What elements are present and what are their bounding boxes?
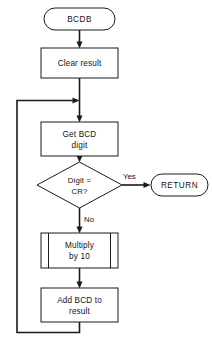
multiply-label-line2: by 10 <box>69 252 90 261</box>
return-terminal-label: RETURN <box>161 181 198 190</box>
get-bcd-digit-label-line2: digit <box>72 141 88 150</box>
flowchart-canvas: BCDB Clear result Get BCD digit Digit = … <box>0 0 213 346</box>
decision-label-line1: Digit = <box>68 176 92 185</box>
connector-decision-no-to-multiply <box>77 208 83 234</box>
add-bcd-shape <box>41 288 118 322</box>
add-bcd-label-line2: result <box>69 307 90 316</box>
node-decision-digit-cr: Digit = CR? <box>37 162 122 208</box>
node-clear-result: Clear result <box>41 48 118 78</box>
start-terminal-label: BCDB <box>67 15 92 24</box>
decision-label-line2: CR? <box>71 187 88 196</box>
node-return-terminal: RETURN <box>151 174 208 196</box>
node-add-bcd-to-result: Add BCD to result <box>41 288 118 322</box>
decision-diamond-shape <box>37 162 122 208</box>
get-bcd-digit-label-line1: Get BCD <box>63 130 97 139</box>
connector-multiply-to-addbcd <box>77 268 83 289</box>
branch-label-no: No <box>84 215 95 224</box>
multiply-label-line1: Multiply <box>65 241 95 250</box>
multiply-shape <box>41 233 118 268</box>
connector-start-to-clear <box>77 30 83 49</box>
node-start-terminal: BCDB <box>44 8 115 30</box>
connector-decision-yes-to-return <box>122 182 151 188</box>
add-bcd-label-line1: Add BCD to <box>57 296 102 305</box>
branch-label-yes: Yes <box>123 172 136 181</box>
get-bcd-digit-shape <box>41 122 118 156</box>
flowchart-svg: BCDB Clear result Get BCD digit Digit = … <box>0 0 213 346</box>
node-get-bcd-digit: Get BCD digit <box>41 122 118 156</box>
node-multiply-by-10: Multiply by 10 <box>41 233 118 268</box>
clear-result-label: Clear result <box>58 59 102 68</box>
